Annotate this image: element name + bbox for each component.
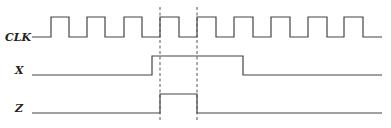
clk-label: CLK: [5, 31, 31, 44]
z-waveform: [32, 94, 382, 113]
x-waveform: [32, 56, 382, 75]
x-label: X: [14, 64, 24, 77]
clk-waveform: [32, 17, 382, 37]
timing-diagram: CLK X Z: [0, 0, 391, 128]
z-label: Z: [14, 102, 24, 115]
